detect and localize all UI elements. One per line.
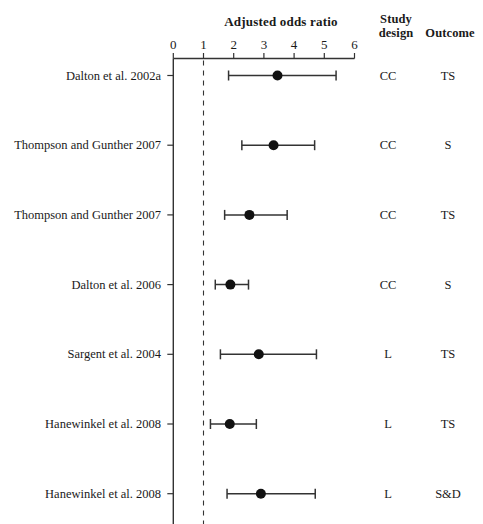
cell-study-design: CC: [368, 68, 408, 83]
column-header-study-design: Study design: [368, 12, 424, 40]
point-estimate-marker: [256, 489, 266, 499]
point-estimate-marker: [254, 349, 264, 359]
plot-series: [167, 71, 336, 499]
cell-outcome: S: [420, 277, 476, 292]
point-estimate-marker: [244, 210, 254, 220]
plot-axes: [173, 53, 354, 524]
cell-study-design: CC: [368, 138, 408, 153]
study-label: Sargent et al. 2004: [0, 347, 161, 362]
cell-study-design: L: [368, 486, 408, 501]
study-label: Dalton et al. 2006: [0, 277, 161, 292]
x-tick-label-1: 1: [192, 37, 216, 53]
x-tick-label-3: 3: [252, 37, 276, 53]
x-tick-label-2: 2: [222, 37, 246, 53]
point-estimate-marker: [269, 140, 279, 150]
cell-study-design: L: [368, 347, 408, 362]
x-tick-label-5: 5: [312, 37, 336, 53]
cell-outcome: TS: [420, 417, 476, 432]
cell-outcome: TS: [420, 347, 476, 362]
study-label: Thompson and Gunther 2007: [0, 207, 161, 222]
study-label: Thompson and Gunther 2007: [0, 138, 161, 153]
study-label: Hanewinkel et al. 2008: [0, 486, 161, 501]
x-tick-label-4: 4: [282, 37, 306, 53]
x-tick-label-6: 6: [343, 37, 367, 53]
column-header-outcome: Outcome: [419, 26, 481, 40]
cell-study-design: CC: [368, 207, 408, 222]
point-estimate-marker: [272, 71, 282, 81]
study-label: Hanewinkel et al. 2008: [0, 417, 161, 432]
cell-outcome: TS: [420, 68, 476, 83]
cell-outcome: TS: [420, 207, 476, 222]
cell-outcome: S: [420, 138, 476, 153]
point-estimate-marker: [225, 280, 235, 290]
column-header-study-design-line2: design: [368, 26, 424, 40]
cell-study-design: CC: [368, 277, 408, 292]
point-estimate-marker: [225, 419, 235, 429]
column-header-study-design-line1: Study: [368, 12, 424, 26]
cell-outcome: S&D: [420, 486, 476, 501]
study-label: Dalton et al. 2002a: [0, 68, 161, 83]
x-tick-label-0: 0: [161, 37, 185, 53]
cell-study-design: L: [368, 417, 408, 432]
axis-title: Adjusted odds ratio: [196, 14, 366, 30]
